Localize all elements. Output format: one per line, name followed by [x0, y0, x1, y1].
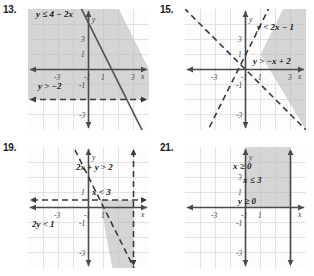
inequality-label-1: 2x + y > 2: [76, 162, 113, 172]
svg-text:-3: -3: [236, 249, 242, 258]
coordinate-plane: -3-1 13 31 -1-3 x y: [28, 9, 149, 130]
svg-text:1: 1: [238, 50, 242, 59]
svg-text:3: 3: [80, 35, 85, 44]
svg-text:-1: -1: [236, 81, 242, 90]
x-axis-label: x: [297, 72, 302, 81]
graph-15: -3-1 13 31 -1-3 x y y < 2x − 1 y > −x + …: [185, 9, 306, 130]
problem-13: 13.: [0, 0, 157, 138]
x-axis-label: x: [140, 210, 145, 219]
y-axis-label: y: [248, 15, 253, 24]
problem-number: 19.: [3, 142, 16, 153]
y-axis-label: y: [91, 15, 96, 24]
svg-text:3: 3: [237, 173, 242, 182]
graph-13: -3-1 13 31 -1-3 x y y ≤ 4 − 2x y > −2: [28, 9, 149, 130]
problem-21: 21.: [157, 138, 314, 276]
svg-text:-3: -3: [79, 111, 85, 120]
problem-number: 13.: [3, 4, 16, 15]
svg-text:1: 1: [101, 73, 105, 82]
inequality-label-1: y ≤ 4 − 2x: [36, 9, 73, 19]
svg-text:-1: -1: [79, 219, 85, 228]
problem-number: 21.: [160, 142, 173, 153]
svg-text:3: 3: [130, 73, 135, 82]
svg-text:1: 1: [81, 50, 85, 59]
graph-19: -3-1 1 1 -1-3 x y 2x + y > 2 x < 3 2y < …: [28, 147, 149, 268]
svg-text:-3: -3: [236, 111, 242, 120]
x-axis-label: x: [297, 210, 302, 219]
inequality-label-2: x ≤ 3: [243, 175, 261, 185]
svg-text:-3: -3: [211, 73, 217, 82]
svg-text:1: 1: [258, 73, 262, 82]
inequality-label-2: y > −x + 2: [253, 56, 291, 66]
svg-text:-3: -3: [211, 211, 217, 220]
svg-text:1: 1: [258, 211, 262, 220]
graph-21: -3-1 1 31 -1-3 x y x ≥ 0 x ≤ 3 y ≥ 0: [185, 147, 306, 268]
inequality-label-1: x ≥ 0: [233, 161, 251, 171]
x-axis-label: x: [140, 72, 145, 81]
svg-text:3: 3: [287, 73, 292, 82]
inequality-label-2: y > −2: [38, 81, 62, 91]
problem-15: 15.: [157, 0, 314, 138]
svg-text:-1: -1: [236, 219, 242, 228]
svg-text:1: 1: [101, 211, 105, 220]
inequality-label-3: 2y < 1: [32, 219, 55, 229]
problem-19: 19.: [0, 138, 157, 276]
inequality-label-1: y < 2x − 1: [257, 22, 294, 32]
problem-number: 15.: [160, 4, 173, 15]
y-axis-label: y: [91, 153, 96, 162]
svg-text:-3: -3: [79, 249, 85, 258]
svg-text:3: 3: [237, 35, 242, 44]
exercise-sheet: 13.: [0, 0, 314, 276]
inequality-label-3: y ≥ 0: [238, 196, 256, 206]
svg-text:-1: -1: [79, 81, 85, 90]
svg-text:1: 1: [81, 188, 85, 197]
inequality-label-2: x < 3: [92, 187, 111, 197]
